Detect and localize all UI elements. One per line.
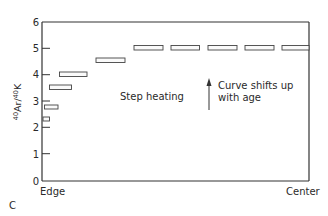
step-segment (134, 46, 163, 51)
step-heating-label: Step heating (120, 91, 184, 102)
y-axis-tick-labels: 0 1 2 3 4 5 6 (33, 17, 39, 187)
age-spectrum-chart: 0 1 2 3 4 5 6 40Ar/40K Step heating Curv… (0, 0, 328, 216)
step-segment (282, 46, 309, 51)
step-segment (45, 105, 59, 109)
y-tick-label: 3 (33, 96, 39, 107)
up-arrow-icon (207, 78, 212, 110)
y-tick-label: 1 (33, 149, 39, 160)
curve-shift-label-line1: Curve shifts up (218, 80, 293, 91)
step-segment (171, 46, 200, 51)
y-tick-label: 2 (33, 122, 39, 133)
y-tick-label: 4 (33, 69, 39, 80)
y-tick-label: 6 (33, 17, 39, 28)
step-segment (245, 46, 274, 51)
y-tick-label: 5 (33, 43, 39, 54)
x-axis-label-edge: Edge (40, 186, 65, 197)
step-segment (60, 72, 88, 77)
step-segment (96, 58, 125, 63)
step-segment (43, 117, 50, 121)
y-axis-label: 40Ar/40K (12, 83, 23, 120)
x-axis-label-center: Center (286, 186, 321, 197)
panel-label: c (9, 200, 16, 211)
step-segment (50, 85, 72, 90)
curve-shift-label-line2: with age (218, 92, 261, 103)
y-axis-ticks (42, 48, 50, 153)
svg-text:40Ar/40K: 40Ar/40K (12, 83, 23, 120)
step-segment (208, 46, 237, 51)
y-tick-label: 0 (33, 176, 39, 187)
